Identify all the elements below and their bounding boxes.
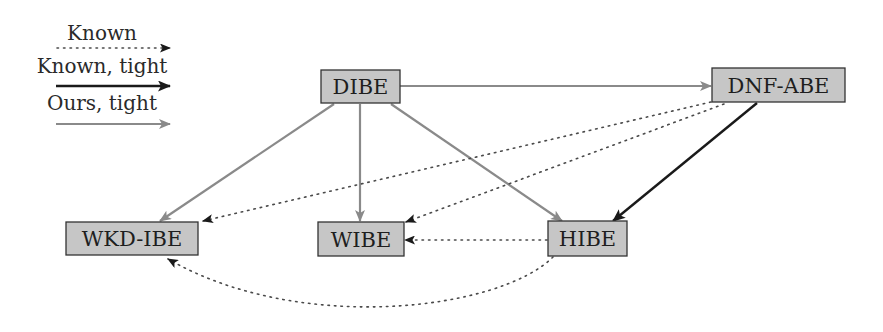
legend-label-ours-tight: Ours, tight [47,91,157,115]
legend: Known Known, tight Ours, tight [37,21,170,124]
node-hibe: HIBE [548,221,627,256]
node-dibe: DIBE [321,70,400,103]
legend-label-known: Known [67,21,137,45]
node-dnf-abe: DNF-ABE [712,68,845,102]
node-wibe: WIBE [318,222,404,256]
edge-dibe-to-wkd-ibe [160,104,334,221]
node-wkd-ibe: WKD-IBE [66,222,198,255]
reduction-diagram: Known Known, tight Ours, tight DIBE DNF-… [0,0,883,332]
edge-hibe-to-wkd-ibe [168,257,553,307]
node-wkd-ibe-label: WKD-IBE [82,227,183,251]
edge-dibe-to-hibe [391,104,562,221]
node-dnf-abe-label: DNF-ABE [728,74,830,98]
legend-label-known-tight: Known, tight [37,54,168,78]
edge-dnf-abe-to-wibe [406,104,724,222]
node-hibe-label: HIBE [559,227,616,251]
node-dibe-label: DIBE [333,75,389,99]
node-wibe-label: WIBE [331,228,392,252]
